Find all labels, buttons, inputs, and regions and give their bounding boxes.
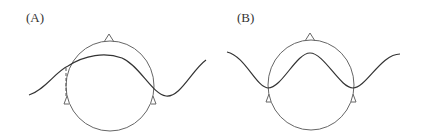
wave-a xyxy=(29,55,206,96)
diagram-canvas xyxy=(0,0,423,140)
panel-a xyxy=(29,34,206,131)
panel-b xyxy=(227,33,400,130)
wave-b xyxy=(227,52,400,88)
head-outline-a xyxy=(66,41,154,131)
